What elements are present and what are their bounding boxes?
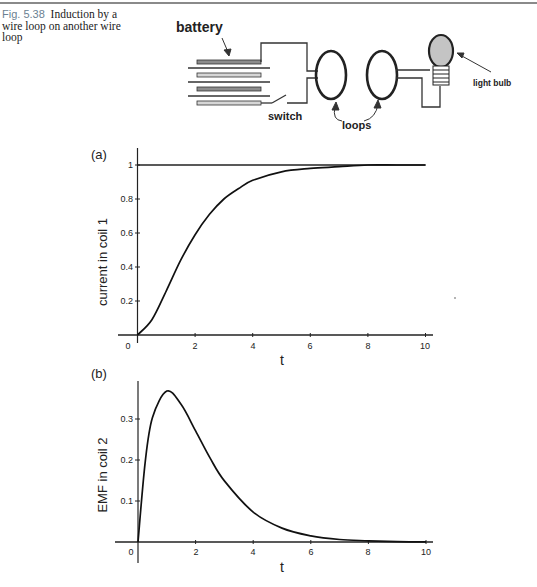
loops-label: loops bbox=[342, 119, 371, 131]
figure-canvas: battery switch loops light bulb (a) 0.2 … bbox=[0, 0, 537, 587]
chart-a: (a) 0.2 0.4 0.6 0.8 1 0 2 4 6 bbox=[91, 147, 433, 368]
svg-text:0.8: 0.8 bbox=[120, 194, 133, 204]
svg-text:0: 0 bbox=[128, 547, 133, 557]
svg-text:6: 6 bbox=[307, 341, 312, 351]
chart-a-x-label: t bbox=[280, 352, 284, 368]
switch-label: switch bbox=[268, 110, 303, 122]
svg-text:0.2: 0.2 bbox=[120, 296, 133, 306]
panel-a-label: (a) bbox=[91, 147, 107, 162]
circuit-diagram: battery switch loops light bulb bbox=[176, 19, 511, 131]
light-bulb bbox=[429, 35, 453, 85]
svg-text:8: 8 bbox=[365, 547, 370, 557]
svg-text:0.4: 0.4 bbox=[120, 262, 133, 272]
current-curve bbox=[138, 165, 426, 335]
chart-b-x-label: t bbox=[280, 559, 284, 575]
battery-label: battery bbox=[176, 19, 223, 35]
svg-text:2: 2 bbox=[193, 547, 198, 557]
svg-text:6: 6 bbox=[308, 547, 313, 557]
light-bulb-label: light bulb bbox=[473, 78, 511, 88]
emf-curve bbox=[138, 391, 426, 542]
svg-text:0.6: 0.6 bbox=[120, 228, 133, 238]
svg-text:10: 10 bbox=[420, 341, 430, 351]
panel-b-label: (b) bbox=[91, 366, 107, 381]
svg-text:0.1: 0.1 bbox=[120, 496, 133, 506]
svg-text:4: 4 bbox=[250, 547, 255, 557]
chart-b: (b) 0.1 0.2 0.3 0 2 4 6 8 10 t EMF in co… bbox=[91, 366, 433, 575]
svg-text:8: 8 bbox=[365, 341, 370, 351]
svg-text:2: 2 bbox=[192, 341, 197, 351]
chart-b-y-label: EMF in coil 2 bbox=[95, 437, 110, 512]
svg-text:1: 1 bbox=[128, 160, 133, 170]
loop-2 bbox=[367, 51, 397, 99]
chart-a-y-label: current in coil 1 bbox=[95, 218, 110, 306]
switch bbox=[272, 95, 286, 103]
speck bbox=[454, 297, 456, 299]
svg-text:0.2: 0.2 bbox=[120, 455, 133, 465]
svg-text:4: 4 bbox=[250, 341, 255, 351]
svg-text:0: 0 bbox=[125, 341, 130, 351]
svg-text:0.3: 0.3 bbox=[120, 414, 133, 424]
svg-text:10: 10 bbox=[421, 547, 431, 557]
loop-1 bbox=[316, 51, 346, 99]
